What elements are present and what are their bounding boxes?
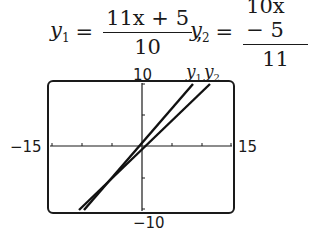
y2-series-label: y2 (204, 63, 220, 86)
x-max-label: 15 (238, 140, 257, 155)
y2-line (79, 84, 210, 210)
y1-series-label: y1 (186, 63, 202, 86)
y-min-label: −10 (133, 216, 165, 231)
y-max-label: 10 (133, 68, 152, 83)
graph-plot (0, 0, 312, 240)
x-min-label: −15 (10, 140, 42, 155)
graph-frame (48, 81, 234, 213)
